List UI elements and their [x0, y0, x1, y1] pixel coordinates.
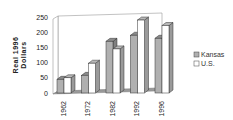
y-tick-label: 100 [36, 59, 48, 66]
y-axis-label: Real 1996Dollars [12, 37, 27, 74]
legend-label: U.S. [201, 60, 215, 67]
y-tick-label: 50 [40, 74, 48, 81]
bar-us-1996 [162, 23, 173, 93]
x-tick-label: 1972 [84, 101, 91, 117]
x-tick-label: 1996 [158, 101, 165, 117]
y-axis-label-line: Dollars [20, 41, 27, 68]
legend: KansasU.S. [194, 51, 225, 67]
bar-us-1982 [113, 46, 124, 93]
y-tick-label: 150 [36, 44, 48, 51]
bar-us-1972 [89, 60, 100, 93]
legend-swatch [194, 61, 199, 66]
bar-chart: 050100150200250 Real 1996Dollars 1962197… [0, 0, 233, 120]
y-tick-label: 0 [44, 90, 48, 97]
legend-swatch [194, 52, 199, 57]
x-tick-label: 1962 [60, 101, 67, 117]
x-tick-label: 1992 [133, 101, 140, 117]
x-axis: 19621972198219921996 [60, 101, 165, 117]
bar-us-1992 [138, 17, 149, 93]
y-tick-label: 200 [36, 29, 48, 36]
y-axis-label-line: Real 1996 [12, 37, 19, 74]
y-tick-label: 250 [36, 14, 48, 21]
bar-us-1962 [64, 75, 75, 93]
y-axis: 050100150200250 [36, 14, 48, 97]
x-tick-label: 1982 [109, 101, 116, 117]
legend-label: Kansas [201, 51, 225, 58]
